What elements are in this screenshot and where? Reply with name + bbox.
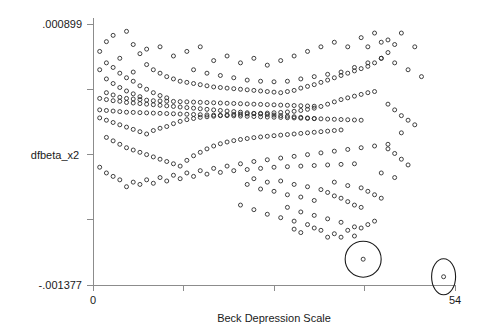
y-axis-top-tick-label: .000899 xyxy=(42,18,82,30)
data-point xyxy=(98,116,102,120)
data-point xyxy=(359,67,363,71)
data-point xyxy=(111,174,115,178)
data-point xyxy=(419,75,423,79)
data-point xyxy=(373,144,377,148)
data-point xyxy=(319,228,323,232)
data-point xyxy=(359,226,363,230)
data-point xyxy=(165,160,169,164)
data-point xyxy=(346,71,350,75)
data-point xyxy=(151,129,155,133)
data-point xyxy=(312,83,316,87)
data-point xyxy=(171,99,175,103)
data-point xyxy=(319,80,323,84)
data-point xyxy=(171,77,175,81)
data-point xyxy=(185,49,189,53)
data-point xyxy=(192,68,196,72)
data-point xyxy=(312,117,316,121)
data-point xyxy=(131,70,135,74)
data-point xyxy=(225,54,229,58)
data-point xyxy=(171,122,175,126)
data-point xyxy=(359,146,363,150)
data-point xyxy=(178,177,182,181)
data-point xyxy=(346,200,350,204)
data-point xyxy=(292,88,296,92)
data-point xyxy=(393,176,397,180)
data-point xyxy=(279,103,283,107)
data-point xyxy=(185,118,189,122)
data-point xyxy=(413,123,417,127)
data-point xyxy=(265,103,269,107)
data-point xyxy=(373,219,377,223)
data-point xyxy=(192,154,196,158)
data-point xyxy=(306,223,310,227)
data-point xyxy=(326,117,330,121)
data-point xyxy=(265,90,269,94)
data-point xyxy=(386,142,390,146)
data-point xyxy=(118,86,122,90)
data-point xyxy=(232,87,236,91)
data-point xyxy=(232,169,236,173)
data-point xyxy=(111,139,115,143)
data-point xyxy=(104,118,108,122)
data-point xyxy=(185,106,189,110)
data-point xyxy=(279,179,283,183)
data-point xyxy=(359,36,363,40)
data-point xyxy=(125,29,129,33)
data-point xyxy=(366,223,370,227)
data-point xyxy=(379,56,383,60)
data-point xyxy=(265,63,269,67)
data-point xyxy=(225,101,229,105)
data-point xyxy=(104,77,108,81)
data-point xyxy=(326,190,330,194)
data-point xyxy=(279,91,283,95)
data-point xyxy=(158,157,162,161)
data-points-group xyxy=(98,29,446,278)
data-point xyxy=(346,184,350,188)
data-point xyxy=(212,144,216,148)
data-point xyxy=(138,84,142,88)
data-point xyxy=(399,131,403,135)
data-point xyxy=(259,102,263,106)
data-point xyxy=(265,134,269,138)
data-point xyxy=(192,82,196,86)
data-point xyxy=(151,181,155,185)
data-point xyxy=(212,85,216,89)
data-point xyxy=(192,106,196,110)
data-point xyxy=(299,104,303,108)
data-point xyxy=(145,153,149,157)
data-point xyxy=(98,49,102,53)
data-point xyxy=(352,94,356,98)
data-point xyxy=(232,76,236,80)
data-point xyxy=(225,109,229,113)
data-point xyxy=(326,129,330,133)
data-point xyxy=(339,162,343,166)
data-point xyxy=(171,112,175,116)
data-point xyxy=(111,121,115,125)
data-point xyxy=(245,88,249,92)
data-point xyxy=(326,102,330,106)
data-point xyxy=(279,156,283,160)
data-point xyxy=(151,155,155,159)
data-point xyxy=(158,99,162,103)
data-point xyxy=(145,63,149,67)
data-point xyxy=(386,38,390,42)
data-point xyxy=(138,111,142,115)
data-point xyxy=(198,150,202,154)
data-point xyxy=(165,179,169,183)
data-point xyxy=(192,174,196,178)
data-point xyxy=(279,133,283,137)
data-point xyxy=(225,164,229,168)
data-point xyxy=(165,104,169,108)
data-point xyxy=(373,193,377,197)
data-point xyxy=(272,165,276,169)
data-point xyxy=(245,102,249,106)
data-point xyxy=(285,103,289,107)
outlier-annotations-group xyxy=(345,241,455,295)
data-point xyxy=(118,99,122,103)
data-point xyxy=(205,84,209,88)
data-point xyxy=(178,119,182,123)
data-point xyxy=(312,226,316,230)
plot-canvas: .000899-.001377dfbeta_x2054Beck Depressi… xyxy=(0,0,487,327)
data-point xyxy=(399,31,403,35)
data-point xyxy=(238,203,242,207)
